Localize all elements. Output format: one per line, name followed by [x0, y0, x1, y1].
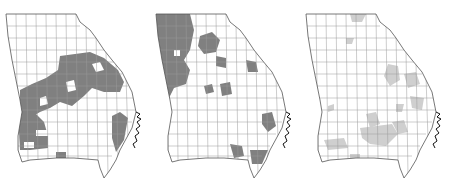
georgia-map-3: [300, 0, 450, 184]
map-2-graphic: [150, 0, 300, 184]
map-panel-row: [0, 0, 451, 184]
map-3-graphic: [300, 0, 450, 184]
georgia-map-2: [150, 0, 300, 184]
map-1-graphic: [0, 0, 150, 184]
georgia-map-1: [0, 0, 150, 184]
